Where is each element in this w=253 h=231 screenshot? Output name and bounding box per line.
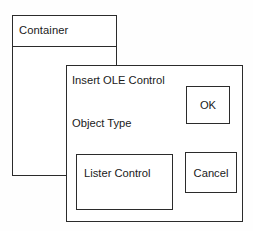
object-type-label: Object Type <box>72 118 132 129</box>
container-title: Container <box>13 25 68 36</box>
dialog-heading: Insert OLE Control <box>72 75 165 86</box>
object-type-listbox[interactable]: Lister Control <box>76 154 173 210</box>
list-item[interactable]: Lister Control <box>84 168 151 179</box>
ok-button[interactable]: OK <box>186 86 230 124</box>
container-titlebar: Container <box>13 16 116 47</box>
insert-ole-control-dialog: Insert OLE Control Object Type Lister Co… <box>66 65 243 222</box>
diagram-canvas: Container Insert OLE Control Object Type… <box>0 0 253 231</box>
cancel-button[interactable]: Cancel <box>185 152 237 193</box>
